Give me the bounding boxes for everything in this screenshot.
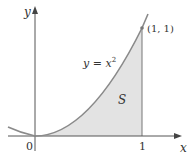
region-s bbox=[35, 28, 142, 136]
x-one-tick-label: 1 bbox=[139, 140, 146, 153]
region-label: S bbox=[118, 93, 126, 107]
point-label: (1, 1) bbox=[147, 23, 174, 34]
x-axis-label: x bbox=[180, 141, 187, 154]
origin-tick-label: 0 bbox=[26, 140, 33, 153]
curve-exponent: 2 bbox=[112, 56, 116, 64]
y-axis-label: y bbox=[23, 5, 31, 19]
curve-label: y = x2 bbox=[82, 56, 116, 70]
point-1-1 bbox=[140, 26, 144, 30]
x-axis-arrow-icon bbox=[174, 133, 182, 139]
parabola-area-diagram: y x 0 1 (1, 1) y = x2 S bbox=[0, 0, 196, 154]
y-axis-arrow-icon bbox=[32, 6, 38, 14]
